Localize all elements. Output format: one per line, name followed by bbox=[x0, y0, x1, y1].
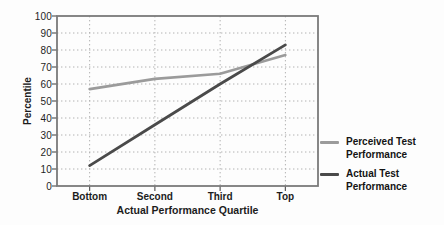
y-tick-label: 20 bbox=[18, 147, 52, 158]
y-tick-label: 10 bbox=[18, 164, 52, 175]
y-tick-label: 90 bbox=[18, 28, 52, 39]
legend-line-swatch bbox=[320, 141, 339, 144]
x-tick-label: Second bbox=[120, 191, 190, 202]
y-tick-label: 50 bbox=[18, 96, 52, 107]
legend: Perceived Test PerformanceActual Test Pe… bbox=[320, 136, 444, 200]
x-tick-label: Bottom bbox=[55, 191, 125, 202]
series-line-1 bbox=[90, 45, 286, 166]
y-tick-label: 60 bbox=[18, 79, 52, 90]
legend-item: Actual Test Performance bbox=[320, 168, 444, 193]
y-tick-label: 40 bbox=[18, 113, 52, 124]
y-tick-label: 0 bbox=[18, 181, 52, 192]
chart-figure: Percentile 1009080706050403020100 Bottom… bbox=[0, 0, 444, 225]
y-tick-label: 70 bbox=[18, 62, 52, 73]
legend-label: Perceived Test Performance bbox=[346, 136, 442, 161]
y-tick-label: 100 bbox=[18, 11, 52, 22]
y-tick-label: 80 bbox=[18, 45, 52, 56]
series-line-0 bbox=[90, 55, 286, 89]
legend-item: Perceived Test Performance bbox=[320, 136, 444, 161]
x-axis-title: Actual Performance Quartile bbox=[57, 204, 318, 216]
y-tick-label: 30 bbox=[18, 130, 52, 141]
legend-line-swatch bbox=[320, 173, 339, 176]
x-tick-label: Top bbox=[250, 191, 320, 202]
x-tick-label: Third bbox=[185, 191, 255, 202]
legend-label: Actual Test Performance bbox=[346, 168, 442, 193]
